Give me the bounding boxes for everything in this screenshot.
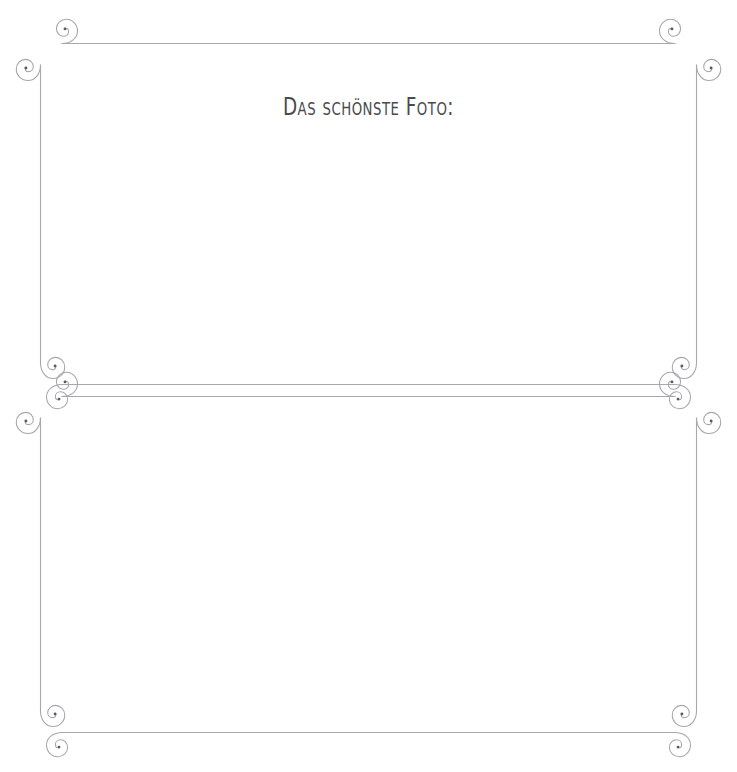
lower-photo-placeholder[interactable] [48,410,689,722]
upper-photo-placeholder[interactable] [48,130,689,370]
page-root: Das schönste Foto: [0,0,737,772]
page-title: Das schönste Foto: [66,92,670,121]
